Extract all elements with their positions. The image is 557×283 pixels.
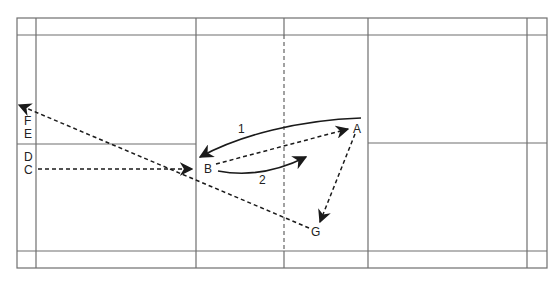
court-lines [17,18,547,268]
position-label-d: D [24,151,33,163]
path-1-a-to-b [200,118,361,157]
path-a-to-g [320,134,355,222]
position-label-a: A [353,123,361,135]
path-label-1: 1 [238,123,245,135]
movement-paths [19,105,361,228]
position-label-e: E [24,128,32,140]
position-label-f: F [24,115,31,127]
path-g-to-f [19,105,309,228]
position-label-b: B [204,163,212,175]
position-label-c: C [24,164,33,176]
path-label-2: 2 [259,174,266,186]
court-diagram [0,0,557,283]
position-label-g: G [311,226,320,238]
path-b-to-a [216,129,348,164]
